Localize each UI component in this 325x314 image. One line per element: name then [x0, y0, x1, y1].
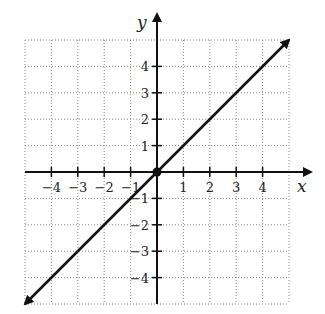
y-tick-label: 4	[141, 59, 149, 74]
x-tick-label: −2	[95, 180, 114, 195]
x-tick-label: 1	[179, 180, 187, 195]
y-axis-label: y	[136, 12, 147, 32]
origin-point	[153, 168, 162, 177]
y-tick-label: 1	[141, 139, 149, 154]
x-tick-label: −3	[68, 180, 87, 195]
y-tick-label: 2	[141, 112, 149, 127]
x-tick-label: 2	[206, 180, 214, 195]
y-tick-label: −4	[130, 271, 149, 286]
x-axis-label: x	[297, 176, 307, 196]
y-tick-label: −1	[130, 191, 149, 206]
y-tick-label: −3	[130, 244, 149, 259]
y-tick-label: −2	[130, 218, 149, 233]
x-tick-label: 4	[258, 180, 266, 195]
y-tick-label: 3	[141, 86, 149, 101]
x-tick-label: 3	[232, 180, 240, 195]
coordinate-plane: −4−3−2−11234−4−3−2−11234 x y	[0, 0, 325, 314]
x-tick-label: −4	[42, 180, 61, 195]
